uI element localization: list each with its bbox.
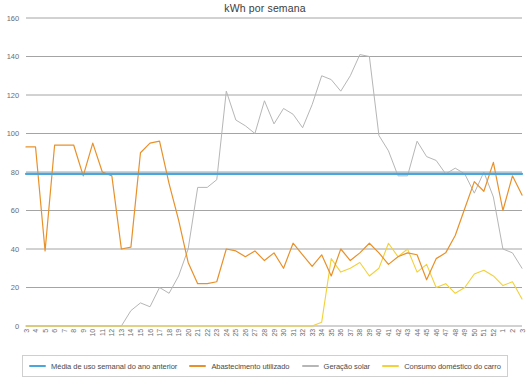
x-axis-tick-label: 22 <box>204 329 211 337</box>
y-axis-tick-label: 120 <box>1 91 19 100</box>
x-axis-tick-label: 29 <box>271 329 278 337</box>
y-axis-tick-label: 140 <box>1 52 19 61</box>
x-axis-tick-label: 17 <box>156 329 163 337</box>
legend-item-label: Consumo doméstico do carro <box>404 362 501 371</box>
x-axis-tick-label: 8 <box>70 329 77 333</box>
x-axis-ticks: 3456789101112131415161718192021222324252… <box>0 328 530 350</box>
x-axis-tick-label: 7 <box>61 329 68 333</box>
x-axis-tick-label: 21 <box>194 329 201 337</box>
legend-color-swatch-icon <box>29 365 46 367</box>
x-axis-tick-label: 3 <box>519 329 526 333</box>
legend-item-label: Média de uso semanal do ano anterior <box>51 362 177 371</box>
x-axis-tick-label: 43 <box>404 329 411 337</box>
series-line-consumo-carro <box>26 243 522 326</box>
legend-item[interactable]: Abastecimento utilizado <box>187 362 291 371</box>
x-axis-tick-label: 31 <box>290 329 297 337</box>
x-axis-tick-label: 50 <box>471 329 478 337</box>
legend-color-swatch-icon <box>302 365 319 367</box>
x-axis-tick-label: 36 <box>337 329 344 337</box>
legend-color-swatch-icon <box>189 365 206 367</box>
x-axis-tick-label: 20 <box>185 329 192 337</box>
x-axis-tick-label: 46 <box>433 329 440 337</box>
x-axis-tick-label: 28 <box>261 329 268 337</box>
x-axis-tick-label: 49 <box>461 329 468 337</box>
x-axis-tick-label: 16 <box>147 329 154 337</box>
x-axis-tick-label: 5 <box>42 329 49 333</box>
legend-item[interactable]: Média de uso semanal do ano anterior <box>27 362 179 371</box>
x-axis-tick-label: 19 <box>175 329 182 337</box>
x-axis-tick-label: 45 <box>423 329 430 337</box>
plot-area <box>0 0 530 384</box>
y-axis-tick-label: 20 <box>1 283 19 292</box>
legend-item[interactable]: Geração solar <box>300 362 372 371</box>
x-axis-tick-label: 11 <box>99 329 106 336</box>
x-axis-tick-label: 12 <box>108 329 115 337</box>
x-axis-tick-label: 39 <box>366 329 373 337</box>
x-axis-tick-label: 13 <box>118 329 125 337</box>
x-axis-tick-label: 27 <box>251 329 258 337</box>
legend-color-swatch-icon <box>382 365 399 367</box>
x-axis-tick-label: 3 <box>23 329 30 333</box>
x-axis-tick-label: 14 <box>127 329 134 337</box>
x-axis-tick-label: 38 <box>356 329 363 337</box>
x-axis-tick-label: 52 <box>490 329 497 337</box>
y-axis-tick-label: 80 <box>1 168 19 177</box>
x-axis-tick-label: 40 <box>375 329 382 337</box>
y-axis-tick-label: 100 <box>1 129 19 138</box>
y-axis-tick-label: 40 <box>1 245 19 254</box>
x-axis-tick-label: 9 <box>80 329 87 333</box>
legend-item-label: Geração solar <box>324 362 370 371</box>
x-axis-tick-label: 25 <box>232 329 239 337</box>
legend-item-label: Abastecimento utilizado <box>211 362 289 371</box>
x-axis-tick-label: 23 <box>213 329 220 337</box>
x-axis-tick-label: 48 <box>452 329 459 337</box>
y-axis-tick-label: 60 <box>1 206 19 215</box>
x-axis-tick-label: 41 <box>385 329 392 337</box>
x-axis-tick-label: 37 <box>347 329 354 337</box>
chart-container: kWh por semana 020406080100120140160 345… <box>0 0 530 384</box>
x-axis-tick-label: 2 <box>509 329 516 333</box>
x-axis-tick-label: 47 <box>442 329 449 337</box>
x-axis-tick-label: 6 <box>51 329 58 333</box>
series-line-abastecimento <box>26 141 522 283</box>
x-axis-tick-label: 44 <box>414 329 421 337</box>
x-axis-tick-label: 33 <box>309 329 316 337</box>
x-axis-tick-label: 32 <box>299 329 306 337</box>
x-axis-tick-label: 30 <box>280 329 287 337</box>
x-axis-tick-label: 34 <box>318 329 325 337</box>
x-axis-tick-label: 10 <box>89 329 96 337</box>
x-axis-tick-label: 24 <box>223 329 230 337</box>
legend-item[interactable]: Consumo doméstico do carro <box>380 362 503 371</box>
x-axis-tick-label: 26 <box>242 329 249 337</box>
chart-legend: Média de uso semanal do ano anteriorAbas… <box>22 355 508 377</box>
x-axis-tick-label: 18 <box>166 329 173 337</box>
x-axis-tick-label: 35 <box>328 329 335 337</box>
y-axis-tick-label: 160 <box>1 14 19 23</box>
x-axis-tick-label: 4 <box>32 329 39 333</box>
x-axis-tick-label: 42 <box>395 329 402 337</box>
x-axis-tick-label: 1 <box>499 329 506 333</box>
x-axis-tick-label: 15 <box>137 329 144 337</box>
x-axis-tick-label: 51 <box>480 329 487 337</box>
